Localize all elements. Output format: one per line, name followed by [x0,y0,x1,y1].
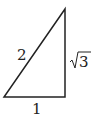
triangle-diagram: 2 1 3 [0,0,94,116]
hypotenuse-label: 2 [17,46,27,64]
height-label: 3 [70,52,91,71]
base-label: 1 [32,100,42,116]
right-triangle [4,9,65,97]
height-radicand: 3 [79,53,89,71]
